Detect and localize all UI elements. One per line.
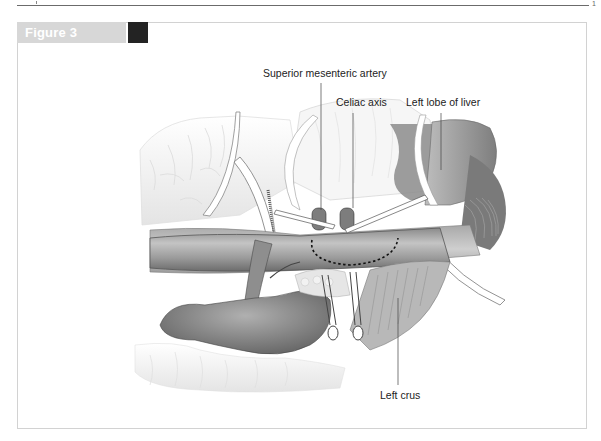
label-left-lobe-of-liver: Left lobe of liver <box>406 96 480 108</box>
label-left-crus: Left crus <box>380 389 420 401</box>
omentum-lower <box>135 343 345 392</box>
label-celiac-axis: Celiac axis <box>336 96 387 108</box>
omentum-upper <box>140 116 300 225</box>
pancreas <box>160 290 331 354</box>
lymph-tissue <box>295 269 350 297</box>
left-crus <box>350 261 450 350</box>
label-superior-mesenteric-artery: Superior mesenteric artery <box>263 67 387 79</box>
